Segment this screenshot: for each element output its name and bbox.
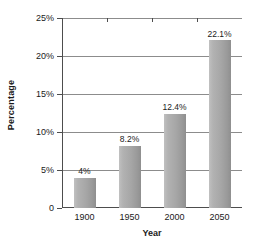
bar-1900[interactable] [74,178,96,208]
bar-group-1950: 8.2% [107,18,152,208]
y-tick-label-0: 0 [49,203,54,213]
y-axis-title: Percentage [0,0,22,210]
y-tick-label-10: 10% [36,127,54,137]
x-tick-mark-1 [107,18,108,22]
x-tick-mark-3 [197,18,198,22]
bar-2050[interactable] [209,40,231,208]
x-tick-mark-2 [152,18,153,22]
bar-chart: Percentage 25% 20% 15% 10% 5% 0 4% [0,0,254,247]
y-tick-label-15: 15% [36,89,54,99]
x-axis-tick-labels: 1900 1950 2000 2050 [62,212,242,228]
x-tick-label-2050: 2050 [209,212,229,222]
bar-2000[interactable] [164,114,186,208]
y-axis-title-text: Percentage [6,80,16,131]
bar-group-2050: 22.1% [197,18,242,208]
y-tick-label-25: 25% [36,13,54,23]
bar-label-2000: 12.4% [162,102,186,112]
y-axis-tick-labels: 25% 20% 15% 10% 5% 0 [22,0,58,215]
x-tick-label-2000: 2000 [164,212,184,222]
plot-area: 4% 8.2% 12.4% 22.1% [62,18,242,208]
bar-label-2050: 22.1% [207,29,231,39]
x-axis-title: Year [62,228,242,238]
x-tick-label-1950: 1950 [119,212,139,222]
bar-label-1900: 4% [78,166,90,176]
bars-layer: 4% 8.2% 12.4% 22.1% [62,18,242,208]
bar-label-1950: 8.2% [120,134,139,144]
y-tick-mark-0 [57,208,62,209]
bar-1950[interactable] [119,146,141,208]
bar-group-2000: 12.4% [152,18,197,208]
bar-group-1900: 4% [62,18,107,208]
x-tick-label-1900: 1900 [74,212,94,222]
y-tick-label-20: 20% [36,51,54,61]
y-tick-label-5: 5% [41,165,54,175]
